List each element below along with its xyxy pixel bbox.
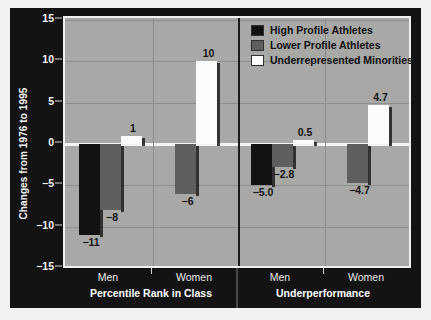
bar-value-label: 0.5 <box>298 126 313 138</box>
bar <box>293 140 314 144</box>
bar-shadow <box>389 107 392 146</box>
bar-value-label: 4.7 <box>373 91 388 103</box>
y-tick-mark <box>55 59 62 60</box>
y-tick-label: 10 <box>42 53 54 65</box>
legend-swatch-icon <box>251 55 264 66</box>
bar-shadow <box>293 146 296 169</box>
y-tick-mark <box>55 18 62 19</box>
bar <box>251 144 272 185</box>
y-tick-label: 0 <box>48 136 54 148</box>
bar-shadow <box>314 142 317 146</box>
y-tick-label: 15 <box>42 12 54 24</box>
bar-shadow <box>368 146 371 185</box>
x-group-label: Percentile Rank in Class <box>90 287 212 299</box>
y-tick-mark <box>55 142 62 143</box>
bar-value-label: −11 <box>82 236 99 248</box>
x-tick-label: Women <box>176 271 212 283</box>
bar-shadow <box>142 138 145 146</box>
bar-value-label: −8 <box>106 211 118 223</box>
legend-item: High Profile Athletes <box>251 23 413 38</box>
legend-swatch-icon <box>251 25 264 36</box>
legend-swatch-icon <box>251 40 264 51</box>
y-axis-ticks: 151050−5−10−15 <box>10 8 64 308</box>
x-group-label: Underperformance <box>276 287 370 299</box>
gridline <box>65 103 409 104</box>
bar-value-label: −4.7 <box>349 184 370 196</box>
bar <box>175 144 196 194</box>
x-tick-label: Men <box>270 271 290 283</box>
y-tick-label: 5 <box>48 95 54 107</box>
bar <box>121 136 142 144</box>
y-tick-mark <box>55 183 62 184</box>
bar <box>272 144 293 167</box>
bar <box>347 144 368 183</box>
y-tick-label: −10 <box>36 219 54 231</box>
legend-item: Underrepresented Minorities <box>251 53 413 68</box>
gridline <box>65 227 409 228</box>
bar-shadow <box>217 63 220 146</box>
x-tick-mark <box>151 268 152 274</box>
x-axis-panel-divider <box>236 268 238 308</box>
x-tick-label: Men <box>98 271 118 283</box>
legend-item: Lower Profile Athletes <box>251 38 413 53</box>
y-tick-label: −5 <box>42 177 54 189</box>
bar <box>79 144 100 235</box>
bar-value-label: 1 <box>130 122 136 134</box>
x-axis: MenWomenMenWomenPercentile Rank in Class… <box>63 268 411 308</box>
bar-shadow <box>196 146 199 196</box>
legend-label: Lower Profile Athletes <box>270 40 380 51</box>
bar <box>100 144 121 210</box>
bar-value-label: −6 <box>182 195 194 207</box>
bar-shadow <box>121 146 124 212</box>
x-tick-mark <box>323 268 324 274</box>
y-tick-mark <box>55 100 62 101</box>
bar-value-label: −5.0 <box>253 186 274 198</box>
legend-label: High Profile Athletes <box>270 25 373 36</box>
legend-label: Underrepresented Minorities <box>270 55 413 66</box>
chart-figure: Changes from 1976 to 1995 151050−5−10−15… <box>0 0 431 320</box>
vertical-gridline <box>153 18 154 266</box>
panel-divider <box>238 18 240 266</box>
y-tick-mark <box>55 266 62 267</box>
y-tick-mark <box>55 224 62 225</box>
chart-legend: High Profile AthletesLower Profile Athle… <box>248 21 417 71</box>
y-tick-label: −15 <box>36 260 54 272</box>
bar-value-label: 10 <box>203 47 215 59</box>
bar-value-label: −2.8 <box>274 168 295 180</box>
x-tick-label: Women <box>348 271 384 283</box>
bar <box>368 105 389 144</box>
bar <box>196 61 217 144</box>
